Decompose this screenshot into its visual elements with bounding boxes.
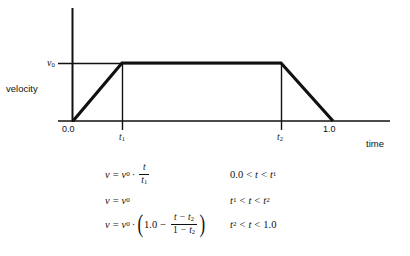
equation-ramp-up: v = v0 · t t1 — [105, 162, 151, 186]
condition-ramp-up: 0.0 < t < t1 — [230, 162, 276, 186]
eq3-parenthesized-group: ( 1.0 − t−t2 1−t2 ) — [137, 213, 205, 236]
eq3-num-a: t — [174, 212, 177, 222]
eq3-lhs: v — [105, 219, 110, 230]
eq1-cond-var: t — [255, 169, 258, 180]
eq1-den-subscript: 1 — [144, 178, 147, 185]
eq3-open-paren: ( — [138, 214, 144, 235]
t2-subscript: 2 — [280, 135, 283, 142]
t1-subscript: 1 — [122, 135, 125, 142]
eq1-cond-lt2: < — [261, 169, 267, 180]
x-axis-title: time — [366, 139, 384, 149]
eq3-cond-lt1: < — [239, 219, 245, 230]
eq3-minus: − — [160, 219, 166, 230]
eq3-cond-var: t — [248, 219, 251, 230]
eq1-equals: = — [113, 169, 119, 180]
y-axis-v0-label: v0 — [47, 58, 55, 68]
eq1-multiply: · — [132, 169, 136, 180]
eq3-cond-upper: 1.0 — [263, 219, 276, 230]
x-tick-end: 1.0 — [323, 125, 336, 134]
v0-subscript: 0 — [51, 61, 54, 68]
eq1-cond-lower: 0.0 — [230, 169, 243, 180]
eq3-multiply: · — [132, 219, 136, 230]
eq3-num-b-subscript: 2 — [191, 215, 194, 222]
equation-ramp-down: v = v0 · ( 1.0 − t−t2 1−t2 ) — [105, 212, 206, 236]
condition-constant: t1 < t < t2 — [230, 188, 270, 212]
eq2-cond-lt1: < — [239, 195, 245, 206]
eq2-cond-var: t — [248, 195, 251, 206]
y-axis-title: velocity — [6, 84, 38, 94]
eq3-den-minus: − — [181, 225, 186, 235]
eq2-equals: = — [113, 195, 119, 206]
eq2-lhs: v — [105, 195, 110, 206]
eq3-denominator: 1−t2 — [171, 226, 197, 236]
equation-list: v = v0 · t t1 0.0 < t < t1 v = v0 t1 < — [0, 160, 410, 256]
eq3-num-minus: − — [180, 212, 185, 222]
velocity-profile-curve — [73, 63, 333, 121]
eq3-one: 1.0 — [144, 219, 157, 230]
velocity-time-chart: velocity v0 time 0.0 t1 t2 1.0 — [0, 0, 410, 155]
eq3-fraction: t−t2 1−t2 — [171, 213, 197, 236]
eq1-denominator: t1 — [139, 176, 149, 186]
eq3-numerator: t−t2 — [172, 213, 196, 223]
eq3-close-paren: ) — [200, 214, 206, 235]
eq1-numerator: t — [141, 163, 148, 173]
x-tick-t2: t2 — [277, 133, 283, 143]
eq2-cond-lt2: < — [254, 195, 260, 206]
velocity-time-figure: velocity v0 time 0.0 t1 t2 1.0 v = v0 · … — [0, 0, 410, 256]
eq1-lhs: v — [105, 169, 110, 180]
eq3-equals: = — [113, 219, 119, 230]
x-tick-t1: t1 — [119, 133, 125, 143]
x-tick-origin: 0.0 — [62, 125, 75, 134]
eq1-fraction: t t1 — [139, 163, 149, 186]
eq3-den-b-subscript: 2 — [192, 228, 195, 235]
eq3-den-a: 1 — [173, 225, 178, 235]
condition-ramp-down: t2 < t < 1.0 — [230, 212, 276, 236]
equation-constant: v = v0 — [105, 188, 130, 212]
eq3-cond-lt2: < — [254, 219, 260, 230]
eq1-cond-lt1: < — [246, 169, 252, 180]
